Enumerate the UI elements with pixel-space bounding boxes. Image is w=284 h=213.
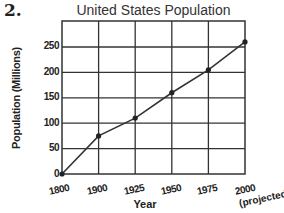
data-point <box>96 133 101 138</box>
data-point <box>242 39 247 44</box>
y-axis-ticks: 0 50 100 150 200 250 <box>0 0 59 213</box>
data-point <box>169 90 174 95</box>
y-axis-label: Population (Millions) <box>10 47 22 149</box>
data-point <box>133 116 138 121</box>
y-tick-250: 250 <box>44 40 59 51</box>
y-tick-50: 50 <box>49 142 59 153</box>
data-point <box>206 67 211 72</box>
y-tick-150: 150 <box>44 91 59 102</box>
x-axis-label: Year <box>133 198 156 210</box>
y-tick-0: 0 <box>54 168 59 179</box>
y-tick-200: 200 <box>44 66 59 77</box>
grid <box>62 21 245 174</box>
data-points <box>59 39 247 176</box>
y-tick-100: 100 <box>44 117 59 128</box>
data-point <box>59 171 64 176</box>
population-line <box>62 42 245 174</box>
